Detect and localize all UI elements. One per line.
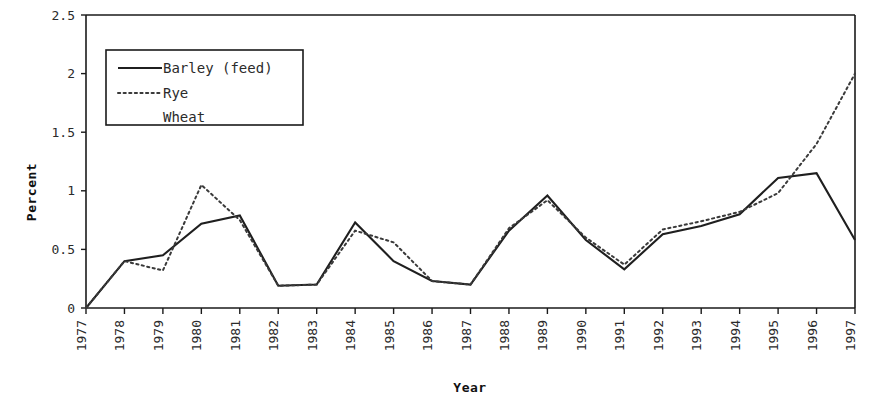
- x-tick-label: 1979: [151, 320, 166, 351]
- x-tick-label: 1994: [728, 320, 743, 351]
- y-tick-label: 2.5: [52, 8, 75, 23]
- chart-figure: 00.511.522.5 197719781979198019811982198…: [0, 0, 872, 406]
- y-tick-label: 0: [67, 301, 75, 316]
- x-tick-label: 1984: [343, 320, 358, 351]
- x-tick-label: 1996: [805, 320, 820, 351]
- y-tick-label: 2: [67, 66, 75, 81]
- x-tick-label: 1982: [266, 320, 281, 351]
- x-axis-tick-marks: [86, 308, 855, 314]
- legend-label-barley-feed: Barley (feed): [163, 60, 273, 76]
- x-tick-label: 1995: [766, 320, 781, 351]
- y-tick-label: 1: [67, 183, 75, 198]
- x-tick-label: 1983: [305, 320, 320, 351]
- x-tick-label: 1978: [112, 320, 127, 351]
- x-tick-label: 1987: [459, 320, 474, 351]
- x-tick-label: 1980: [189, 320, 204, 351]
- x-axis-tick-labels: 1977197819791980198119821983198419851986…: [74, 320, 858, 351]
- x-tick-label: 1992: [651, 320, 666, 351]
- legend-label-wheat: Wheat: [163, 109, 205, 125]
- x-tick-label: 1977: [74, 320, 89, 351]
- x-tick-label: 1993: [689, 320, 704, 351]
- y-axis-title: Percent: [24, 163, 39, 221]
- x-tick-label: 1985: [382, 320, 397, 351]
- legend: Barley (feed) Rye Wheat: [106, 50, 303, 125]
- x-tick-label: 1988: [497, 320, 512, 351]
- x-tick-label: 1989: [535, 320, 550, 351]
- x-tick-label: 1990: [574, 320, 589, 351]
- x-tick-label: 1981: [228, 320, 243, 351]
- x-axis-title: Year: [453, 380, 486, 395]
- y-tick-label: 1.5: [52, 125, 75, 140]
- legend-label-rye: Rye: [163, 85, 188, 101]
- x-tick-label: 1997: [843, 320, 858, 351]
- line-chart-svg: 00.511.522.5 197719781979198019811982198…: [0, 0, 872, 406]
- x-tick-label: 1991: [612, 320, 627, 351]
- y-tick-label: 0.5: [52, 242, 75, 257]
- x-tick-label: 1986: [420, 320, 435, 351]
